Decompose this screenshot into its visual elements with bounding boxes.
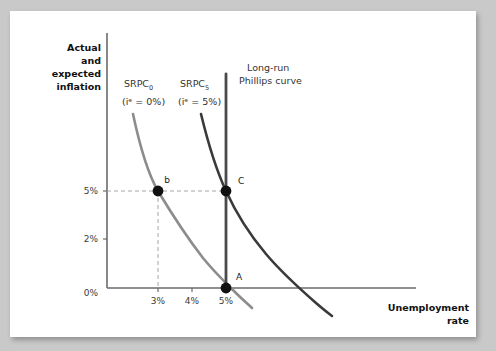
- point-label-a: A: [236, 272, 243, 282]
- point-label-b: b: [164, 175, 170, 185]
- srpc0-curve: [133, 114, 252, 308]
- srpc0-label-text: SRPC: [124, 78, 149, 89]
- y-axis-title-line-4: inflation: [56, 81, 101, 92]
- y-tick-label-5pct: 5%: [84, 186, 99, 196]
- srpc5-curve: [201, 114, 332, 316]
- x-tick-label-3pct: 3%: [151, 296, 166, 306]
- srpc5-label-text: SRPC: [180, 78, 205, 89]
- x-axis-title-line-1: Unemployment: [388, 302, 470, 313]
- x-axis-title-line-2: rate: [447, 315, 469, 326]
- y-axis-title-line-3: expected: [52, 68, 101, 79]
- y-axis-title-line-2: and: [81, 55, 101, 66]
- point-label-c: C: [238, 176, 244, 186]
- srpc5-label: SRPC5: [180, 78, 209, 92]
- y-axis-title-line-1: Actual: [67, 42, 101, 53]
- srpc0-label-subscript: 0: [149, 84, 153, 92]
- srpc5-label-subscript: 5: [205, 84, 209, 92]
- figure-page: b C A Actual and expected inflation Unem…: [10, 11, 476, 337]
- y-tick-label-0pct: 0%: [84, 288, 99, 298]
- x-tick-label-5pct: 5%: [219, 296, 234, 306]
- data-point-c: [221, 186, 232, 197]
- srpc0-label: SRPC0: [124, 78, 153, 92]
- lrpc-label-line-1: Long-run: [247, 62, 289, 73]
- data-point-b: [153, 186, 164, 197]
- data-point-a: [221, 283, 232, 294]
- phillips-curve-figure: b C A Actual and expected inflation Unem…: [10, 11, 476, 337]
- srpc5-expectation-label: (iᵉ = 5%): [178, 96, 221, 107]
- x-tick-label-4pct: 4%: [185, 296, 200, 306]
- y-tick-label-2pct: 2%: [84, 234, 99, 244]
- lrpc-label-line-2: Phillips curve: [239, 75, 302, 86]
- srpc0-expectation-label: (iᵉ = 0%): [122, 96, 165, 107]
